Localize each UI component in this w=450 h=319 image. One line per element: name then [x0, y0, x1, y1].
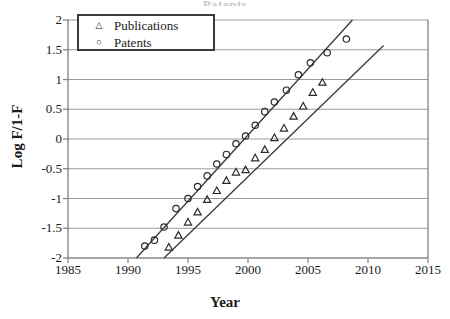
data-point-triangle: [271, 134, 278, 141]
data-point-triangle: [194, 208, 201, 215]
data-point-circle: [271, 99, 277, 105]
data-point-circle: [324, 50, 330, 56]
series-publications-points: [165, 79, 326, 250]
data-point-triangle: [300, 102, 307, 109]
legend-item-patents: ○ Patents: [79, 34, 213, 51]
grid-lines: [68, 20, 428, 228]
data-point-triangle: [280, 124, 287, 131]
data-point-circle: [194, 183, 200, 189]
plot-area: [0, 0, 450, 319]
circle-marker-icon: ○: [88, 38, 110, 47]
fit-line-publications: [164, 46, 384, 258]
data-point-triangle: [223, 177, 230, 184]
data-point-triangle: [309, 89, 316, 96]
data-point-circle: [204, 173, 210, 179]
data-point-triangle: [213, 187, 220, 194]
data-point-circle: [173, 205, 179, 211]
data-point-triangle: [290, 113, 297, 120]
data-point-circle: [223, 151, 229, 157]
triangle-marker-icon: △: [88, 21, 110, 30]
data-point-triangle: [184, 219, 191, 226]
chart-figure: Patents Log F/1-F Year 21.510.50-0.5-1-1…: [0, 0, 450, 319]
chart-legend: △ Publications ○ Patents: [77, 14, 215, 51]
data-point-triangle: [232, 169, 239, 176]
data-point-circle: [233, 141, 239, 147]
data-point-triangle: [165, 243, 172, 250]
data-point-circle: [295, 72, 301, 78]
data-point-circle: [307, 60, 313, 66]
legend-label-patents: Patents: [110, 35, 152, 50]
data-point-circle: [214, 161, 220, 167]
data-point-triangle: [204, 196, 211, 203]
data-point-triangle: [175, 232, 182, 239]
data-point-triangle: [261, 146, 268, 153]
data-point-triangle: [252, 154, 259, 161]
legend-label-publications: Publications: [110, 18, 178, 33]
data-point-circle: [343, 36, 349, 42]
data-point-triangle: [242, 166, 249, 173]
legend-item-publications: △ Publications: [79, 17, 213, 34]
